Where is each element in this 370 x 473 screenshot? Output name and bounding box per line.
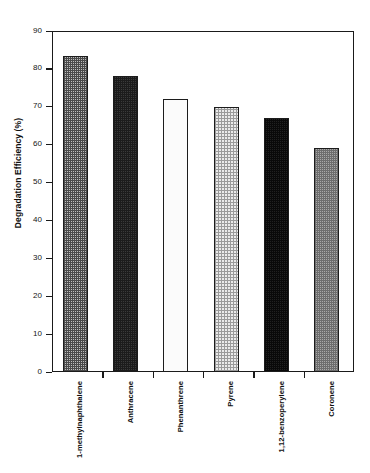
x-axis-label: 1-methylnaphthalene (75, 381, 84, 473)
y-tick-label: 90 (18, 26, 42, 36)
y-tick-label: 80 (18, 63, 42, 73)
y-tick-mark (46, 372, 52, 373)
x-axis-label: Pyrene (226, 381, 235, 473)
x-tick-mark (203, 372, 204, 378)
bar-1 (113, 76, 138, 372)
y-axis-title: Degradation Efficiency (%) (13, 93, 23, 253)
y-tick-mark (46, 68, 52, 69)
y-tick-mark (46, 144, 52, 145)
y-tick-mark (46, 334, 52, 335)
x-tick-mark (253, 372, 254, 378)
y-tick-mark (46, 258, 52, 259)
x-tick-mark (102, 372, 103, 378)
bar-chart: Degradation Efficiency (%) 0102030405060… (0, 0, 370, 473)
bar-3 (214, 107, 239, 372)
bar-2 (163, 99, 188, 372)
y-tick-label: 40 (18, 215, 42, 225)
y-tick-label: 30 (18, 253, 42, 263)
x-axis-label: Phenanthrene (176, 381, 185, 473)
bar-4 (264, 118, 289, 372)
plot-area (52, 31, 354, 372)
y-tick-mark (46, 220, 52, 221)
x-axis-label: Anthracene (126, 381, 135, 473)
y-tick-label: 10 (18, 329, 42, 339)
x-axis-label: 1,12-benzoperylene (277, 381, 286, 473)
y-tick-label: 60 (18, 139, 42, 149)
bar-5 (314, 148, 339, 372)
y-tick-mark (46, 31, 52, 32)
x-tick-mark (153, 372, 154, 378)
y-tick-mark (46, 106, 52, 107)
y-tick-label: 70 (18, 101, 42, 111)
y-tick-mark (46, 182, 52, 183)
y-tick-mark (46, 296, 52, 297)
y-tick-label: 50 (18, 177, 42, 187)
x-tick-mark (304, 372, 305, 378)
x-axis-label: Coronene (327, 381, 336, 473)
bar-0 (63, 56, 88, 372)
y-tick-label: 20 (18, 291, 42, 301)
y-tick-label: 0 (18, 367, 42, 377)
